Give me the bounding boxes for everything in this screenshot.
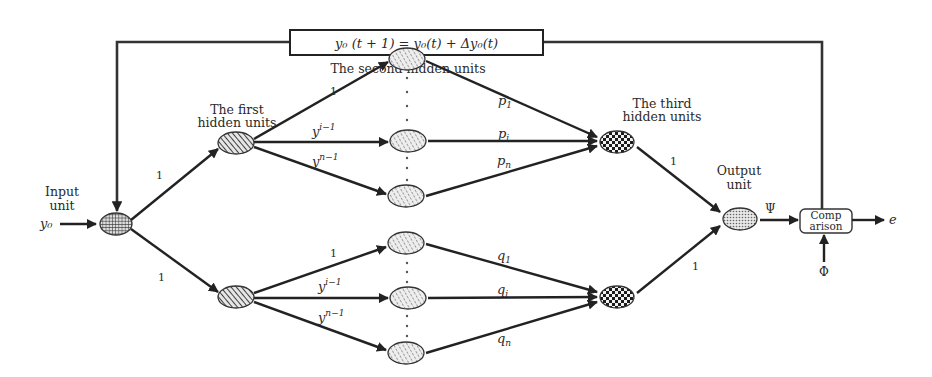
weight-lower-i: yi−1 [317, 277, 342, 294]
second-hidden-node-upper-1 [389, 48, 425, 70]
weight-pn: pn [497, 153, 511, 170]
edge-third-top-to-output [637, 147, 720, 212]
third-hidden-node-bottom [600, 286, 634, 308]
weight-input-first-bottom: 1 [158, 271, 165, 284]
weight-lower-1: 1 [330, 247, 337, 260]
weight-pi: pi [498, 126, 509, 143]
second-hidden-node-upper-i [390, 130, 426, 152]
weight-p1: p1 [498, 93, 512, 110]
weight-third-output-bottom: 1 [692, 260, 699, 273]
first-hidden-label-2: hidden units [197, 115, 276, 130]
edge-input-to-first-bottom [131, 229, 218, 292]
input-node [100, 213, 132, 235]
update-formula: y₀ (t + 1) = y₀(t) + Δy₀(t) [334, 36, 498, 51]
weight-qi: qi [497, 282, 508, 299]
error-signal-e: e [889, 212, 897, 227]
input-unit-label-2: unit [49, 198, 74, 213]
edge-third-bottom-to-output [637, 226, 720, 293]
output-unit-label-2: unit [726, 177, 751, 192]
second-hidden-node-lower-n [388, 342, 424, 364]
weight-upper-i: yi−1 [311, 122, 336, 139]
weight-input-first-top: 1 [156, 169, 163, 182]
edge-second-n-to-third-bottom [426, 302, 597, 353]
output-node [723, 208, 757, 230]
edge-second-1-to-third-top [426, 61, 597, 137]
second-hidden-node-lower-i [390, 287, 426, 309]
input-unit-label-1: Input [45, 184, 79, 199]
edge-second-i-to-third-bottom [428, 297, 597, 298]
weight-third-output-top: 1 [670, 155, 677, 168]
second-hidden-node-lower-1 [388, 232, 424, 254]
reference-signal-phi: Φ [819, 265, 829, 279]
comparison-label-2: arison [809, 220, 842, 232]
edge-second-n-to-third-top [426, 146, 597, 196]
weight-upper-1: 1 [330, 85, 337, 98]
neural-network-diagram: y₀ (t + 1) = y₀(t) + Δy₀(t) y₀ Input uni… [0, 0, 932, 377]
comparison-block: Comp arison e Φ [800, 209, 897, 279]
third-hidden-label-2: hidden units [622, 109, 701, 124]
weight-q1: q1 [497, 248, 511, 265]
first-hidden-node-top [218, 132, 254, 154]
weight-upper-n: yn−1 [311, 152, 338, 169]
output-unit-label-1: Output [717, 163, 761, 178]
first-hidden-node-bottom [218, 286, 254, 308]
input-signal-label: y₀ [39, 216, 53, 231]
input-section: y₀ Input unit [39, 184, 96, 231]
weight-lower-n: yn−1 [317, 308, 344, 325]
output-signal-psi: Ψ [765, 202, 776, 216]
weight-qn: qn [497, 331, 511, 348]
edge-input-to-first-top [131, 149, 218, 220]
second-hidden-node-upper-n [388, 185, 424, 207]
edge-second-1-to-third-bottom [426, 244, 597, 292]
third-hidden-node-top [600, 131, 634, 153]
